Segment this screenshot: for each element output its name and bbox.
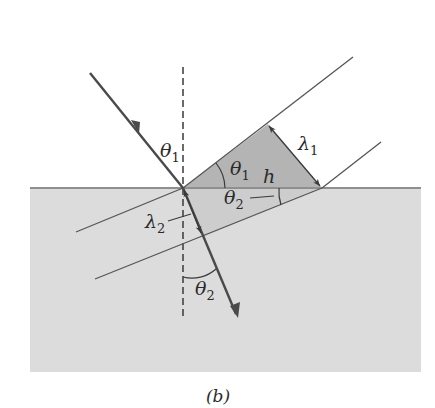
- theta1-incident-label: θ1: [160, 139, 180, 165]
- refraction-diagram: θ1 θ1 λ1 h θ2 λ2 θ2 (b): [0, 0, 435, 408]
- incident-wavefront-2: [322, 142, 381, 188]
- h-label: h: [263, 165, 275, 187]
- lambda1-label: λ1: [297, 132, 318, 158]
- figure-caption: (b): [206, 386, 230, 406]
- incident-ray: [90, 73, 183, 188]
